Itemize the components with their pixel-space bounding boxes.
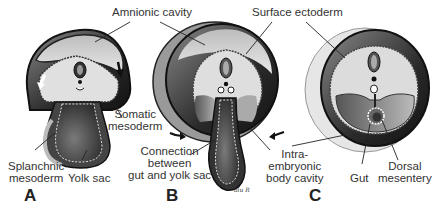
- label-yolk-sac: Yolk sac: [68, 172, 110, 184]
- label-intra-line1: Intra-: [266, 148, 324, 160]
- panel-letter-c: C: [309, 186, 321, 206]
- label-amnionic-cavity: Amnionic cavity: [112, 6, 192, 18]
- label-somatic-mesoderm: Somatic mesoderm: [108, 108, 162, 132]
- label-somatic-mesoderm-line2: mesoderm: [108, 120, 162, 132]
- artist-signature: alu R: [234, 186, 250, 193]
- panel-c-illustration: [305, 28, 429, 152]
- label-gut: Gut: [350, 172, 369, 184]
- label-dorsal-mesentery-line1: Dorsal: [378, 160, 432, 172]
- label-surface-ectoderm: Surface ectoderm: [252, 6, 343, 18]
- label-connection-line3: gut and yolk sac: [128, 169, 211, 181]
- label-connection-gut-yolk-sac: Connection between gut and yolk sac: [128, 145, 211, 181]
- label-intraembryonic-body-cavity: Intra- embryonic body cavity: [266, 148, 324, 184]
- label-intra-line2: embryonic: [266, 160, 324, 172]
- label-splanchnic-mesoderm: Splanchnic mesoderm: [8, 160, 64, 184]
- panel-letter-a: A: [24, 186, 36, 206]
- label-connection-line1: Connection: [128, 145, 211, 157]
- panel-a-illustration: [27, 30, 130, 168]
- label-somatic-mesoderm-line1: Somatic: [108, 108, 162, 120]
- label-splanchnic-mesoderm-line1: Splanchnic: [8, 160, 64, 172]
- label-splanchnic-mesoderm-line2: mesoderm: [8, 172, 64, 184]
- label-intra-line3: body cavity: [266, 172, 324, 184]
- label-dorsal-mesentery: Dorsal mesentery: [378, 160, 432, 184]
- label-connection-line2: between: [128, 157, 211, 169]
- panel-letter-b: B: [166, 186, 178, 206]
- embryo-folding-diagram: Amnionic cavity Surface ectoderm Somatic…: [0, 0, 440, 210]
- label-dorsal-mesentery-line2: mesentery: [378, 172, 432, 184]
